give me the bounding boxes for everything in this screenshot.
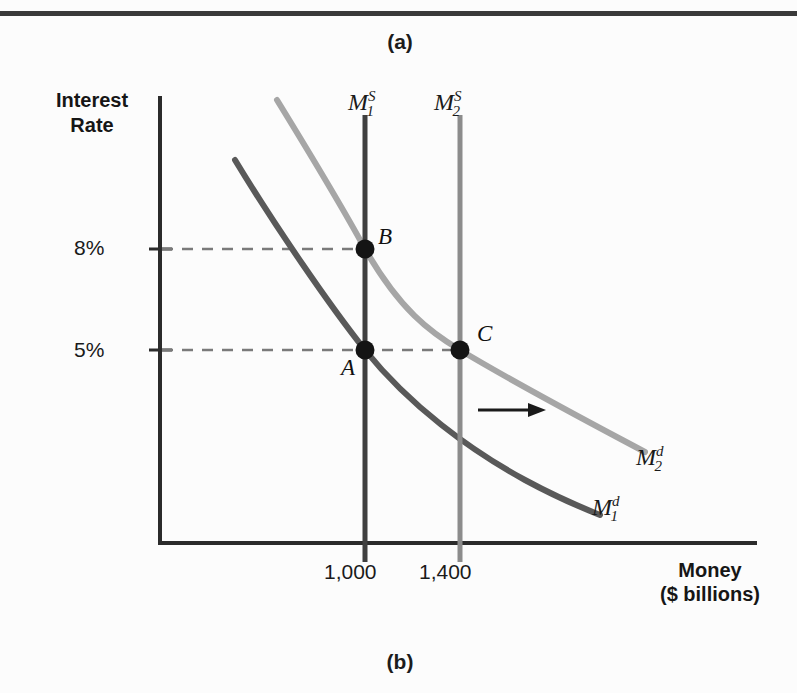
ms2-subscript: 2 <box>453 103 461 119</box>
ms1-base: M <box>348 89 368 115</box>
money-supply-2-label: MS2 <box>434 88 460 120</box>
demand-shift-arrow-head <box>528 403 546 417</box>
equilibrium-point-b <box>356 240 375 259</box>
x-tick-label-1400: 1,400 <box>419 560 472 584</box>
ms1-superscript: S <box>368 88 376 104</box>
ms2-base: M <box>434 89 454 115</box>
x-tick-label-1000: 1,000 <box>324 560 377 584</box>
md2-base: M <box>636 444 656 470</box>
point-b-label: B <box>378 224 392 250</box>
money-demand-2-label: Md2 <box>636 443 662 475</box>
y-tick-label-8pct: 8% <box>74 236 104 260</box>
figure-root: (a) Interest Rate Money ($ billions) <box>0 0 797 693</box>
md2-superscript: d <box>656 443 664 459</box>
money-demand-1-label: Md1 <box>592 493 618 525</box>
equilibrium-point-c <box>451 341 470 360</box>
money-supply-1-label: MS1 <box>348 88 374 120</box>
y-tick-label-5pct: 5% <box>74 338 104 362</box>
money-market-plot <box>0 0 797 693</box>
panel-b-label: (b) <box>340 650 460 674</box>
money-demand-curve-1 <box>235 160 600 515</box>
md1-base: M <box>592 494 612 520</box>
md2-subscript: 2 <box>655 458 663 474</box>
ms1-subscript: 1 <box>367 103 375 119</box>
ms2-superscript: S <box>454 88 462 104</box>
point-a-label: A <box>341 355 355 381</box>
md1-superscript: d <box>612 493 620 509</box>
point-c-label: C <box>477 321 492 347</box>
md1-subscript: 1 <box>611 508 619 524</box>
equilibrium-point-a <box>356 341 375 360</box>
